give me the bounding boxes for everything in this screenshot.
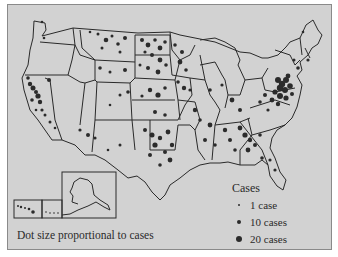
large-dot-icon: [236, 236, 242, 242]
legend-item-10: 10 cases: [230, 214, 260, 230]
map-caption: Dot size proportional to cases: [17, 229, 154, 241]
us-map: [0, 0, 338, 257]
legend-title: Cases: [232, 181, 260, 196]
small-dot-icon: [238, 204, 240, 206]
medium-dot-icon: [237, 220, 241, 224]
alaska-outline: [62, 178, 110, 215]
alaska-inset-box: [62, 172, 116, 218]
legend: Cases 1 case 10 cases 20 cases: [230, 181, 260, 247]
legend-item-1: 1 case: [230, 197, 260, 213]
case-dots: [26, 21, 309, 172]
legend-item-20: 20 cases: [230, 231, 260, 247]
